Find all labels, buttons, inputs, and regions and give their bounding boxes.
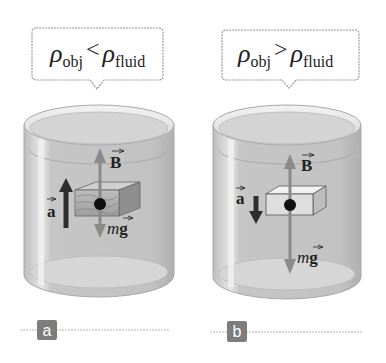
density-bubble-a: ρobj<ρfluid bbox=[32, 28, 163, 89]
panel-label-a: a bbox=[20, 320, 170, 340]
svg-text:b: b bbox=[233, 323, 242, 340]
buoyant-label-a: B bbox=[110, 153, 121, 172]
panel-label-b: b bbox=[210, 321, 362, 342]
relation-less-than: < bbox=[86, 36, 100, 62]
buoyant-label-b: B bbox=[301, 156, 312, 175]
accel-label-a: a bbox=[47, 202, 56, 221]
buoyancy-diagram: ρobj<ρfluid bbox=[0, 0, 386, 363]
relation-greater-than: > bbox=[274, 36, 288, 62]
panel-a: ρobj<ρfluid bbox=[20, 28, 174, 340]
wooden-block bbox=[75, 182, 140, 216]
density-bubble-b: ρobj>ρfluid bbox=[222, 30, 359, 88]
center-of-mass-b bbox=[284, 199, 296, 211]
accel-label-b: a bbox=[236, 189, 245, 208]
panel-b: ρobj>ρfluid a bbox=[210, 30, 362, 342]
rho-obj-a: ρ bbox=[49, 39, 62, 68]
weight-label-b: mg bbox=[297, 248, 318, 267]
rho-obj-b: ρ bbox=[237, 39, 250, 68]
center-of-mass-a bbox=[94, 198, 106, 210]
rho-fluid-a: ρ bbox=[101, 39, 114, 68]
rho-fluid-b: ρ bbox=[289, 39, 302, 68]
dense-block bbox=[266, 186, 326, 215]
weight-label-a: mg bbox=[107, 219, 128, 238]
svg-text:a: a bbox=[43, 322, 52, 339]
